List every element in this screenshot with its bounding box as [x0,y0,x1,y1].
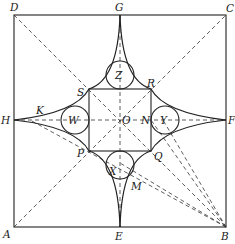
label-Z: Z [114,69,123,81]
label-E: E [114,230,123,242]
label-F: F [227,114,235,126]
label-K: K [35,104,45,116]
label-Q: Q [154,150,163,163]
label-S: S [77,86,84,98]
label-B: B [220,230,229,242]
label-M: M [130,180,142,192]
diagram-canvas: D G C H F A E B K S R P Q M N O Z W Y X [0,0,235,244]
geometry-figure: D G C H F A E B K S R P Q M N O Z W Y X [0,0,235,244]
label-N: N [140,114,151,126]
line-B-N [151,120,226,227]
line-B-W [30,120,226,227]
label-Y: Y [160,114,168,126]
label-P: P [76,147,85,159]
label-H: H [0,114,11,126]
label-D: D [9,1,19,13]
label-X: X [108,165,117,177]
label-A: A [2,228,11,240]
label-G: G [115,1,123,13]
label-O: O [122,114,131,126]
label-C: C [226,2,234,14]
label-W: W [68,114,80,126]
label-R: R [146,77,155,89]
line-B-X [120,163,226,227]
